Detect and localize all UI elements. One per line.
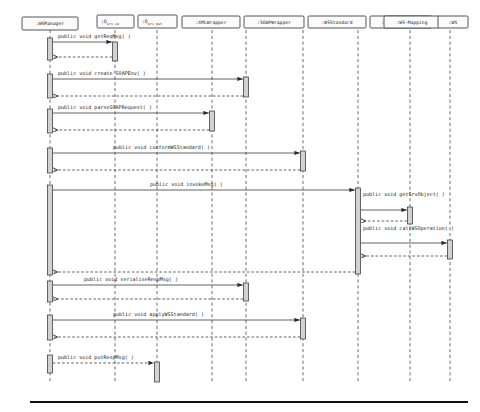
activation-bar-wsmanager <box>48 74 53 98</box>
message-label-3: public void parseSOAPRequest( ) <box>58 104 152 111</box>
activation-bar-serviceloader <box>356 188 361 274</box>
lifeline-head-xmlwrapper[interactable]: :XMLWrapper <box>182 16 240 28</box>
message-label-1: public void getReqMsg( ) <box>58 33 131 40</box>
lifeline-head-qsrvin[interactable]: :Qsrv_in <box>97 15 134 28</box>
sequence-diagram-svg: public void getReqMsg( )public void crea… <box>0 0 480 412</box>
lifeline-subscript-qsrvout: srv_out <box>148 22 162 26</box>
lifeline-label-xmlwrapper: :XMLWrapper <box>196 20 227 25</box>
activation-bar-wsstandard <box>301 151 306 171</box>
activation-bar-wsmanager <box>48 315 53 340</box>
messages-group: public void getReqMsg( )public void crea… <box>53 33 454 363</box>
message-label-6: public void getSrvObject( ) <box>363 191 445 198</box>
activation-bar-wsmanager <box>48 185 53 275</box>
activation-bar-wsmanager <box>48 148 53 173</box>
activation-bar-qsrvin <box>113 42 118 61</box>
lifeline-subscript-qsrvin: srv_in <box>107 22 119 26</box>
activation-bar-wsmanager <box>48 38 53 60</box>
lifeline-head-soapwrapper[interactable]: :SOAPWrapper <box>244 16 304 28</box>
lifeline-label-wsmanager: :WSManager <box>36 21 64 26</box>
sequence-diagram-canvas: public void getReqMsg( )public void crea… <box>0 0 480 412</box>
lifeline-head-wsstandard[interactable]: :WSStandard <box>308 16 366 28</box>
lifeline-head-qsrvout[interactable]: :Qsrv_out <box>138 15 177 28</box>
message-label-5: public void invokeMsg( ) <box>150 181 223 188</box>
message-label-2: public void create SOAPEnv( ) <box>58 70 146 77</box>
message-label-9: public void applyWSStandard( ) <box>113 311 204 318</box>
activation-bar-wsstandard <box>301 318 306 339</box>
activation-bar-qsrvout <box>155 362 160 382</box>
message-label-4: public void conformWSStandard( ) <box>113 144 210 151</box>
activation-bar-ws <box>448 240 453 259</box>
message-label-7: public void callWSOperation( ) <box>363 225 454 232</box>
lifeline-label-ws: :WS <box>449 20 458 25</box>
lifeline-heads-group: :WSManager:Qsrv_in:Qsrv_out:XMLWrapper:S… <box>22 15 468 30</box>
lifeline-label-soapwrapper: :SOAPWrapper <box>257 20 291 25</box>
lifeline-head-wsmapping[interactable]: :WS-Mapping <box>384 16 440 28</box>
message-label-10: public void putRespMsg( ) <box>58 354 134 361</box>
activation-bar-wsmanager <box>48 109 53 133</box>
activation-bar-wsmanager <box>48 281 53 302</box>
lifeline-label-wsmapping: :WS-Mapping <box>397 20 428 25</box>
activation-bar-wsmanager <box>48 355 53 373</box>
activation-bar-wsmapping <box>408 207 413 224</box>
activation-bar-xmlwrapper <box>210 111 215 131</box>
message-label-8: public void serialiseRespMsg( ) <box>84 276 178 283</box>
activation-bar-soapwrapper <box>244 283 249 301</box>
lifeline-head-ws[interactable]: :WS <box>438 16 468 28</box>
lifelines-group <box>50 30 450 382</box>
activation-bar-soapwrapper <box>244 77 249 97</box>
lifeline-head-wsmanager[interactable]: :WSManager <box>22 17 78 30</box>
lifeline-label-wsstandard: :WSStandard <box>322 20 353 25</box>
